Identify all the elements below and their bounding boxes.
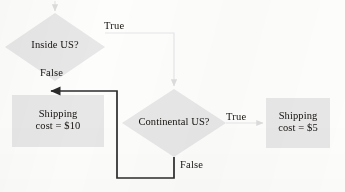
node-inside-us-diamond [5,13,105,81]
node-shipping-10-box [12,95,104,147]
flowchart-canvas: right, down into Continental US? --> Shi… [0,0,345,192]
node-continental-us-diamond [122,89,226,157]
node-shipping-5-box [266,98,330,148]
flowchart-vector-layer: right, down into Continental US? --> Shi… [0,0,345,192]
edge-inside-us-true [105,33,174,86]
